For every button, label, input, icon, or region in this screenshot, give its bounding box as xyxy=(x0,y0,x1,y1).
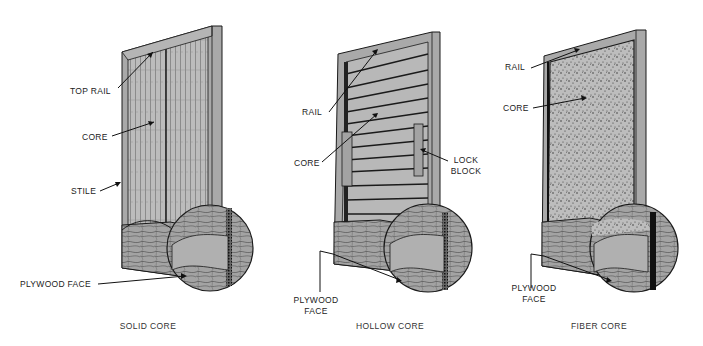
solid-core-door xyxy=(98,26,253,291)
label-lock-block-line2: BLOCK xyxy=(448,166,484,177)
caption-solid-core: SOLID CORE xyxy=(118,321,178,331)
caption-hollow-core: HOLLOW CORE xyxy=(350,321,430,331)
door-core-diagram xyxy=(0,0,703,346)
label-core: CORE xyxy=(82,132,108,143)
label-rail: RAIL xyxy=(302,107,322,118)
label-top-rail: TOP RAIL xyxy=(70,86,111,97)
label-plywood-face: PLYWOOD FACE xyxy=(20,279,91,290)
label-plywood-face-line1: PLYWOOD xyxy=(290,295,342,306)
label-lock-block-line1: LOCK xyxy=(448,155,484,166)
label-lock-block: LOCK BLOCK xyxy=(448,155,484,177)
label-plywood-face-line1: PLYWOOD xyxy=(508,283,560,294)
caption-fiber-core: FIBER CORE xyxy=(564,321,634,331)
label-rail: RAIL xyxy=(505,62,525,73)
label-plywood-face-line2: FACE xyxy=(508,294,560,305)
label-plywood-face: PLYWOOD FACE xyxy=(290,295,342,317)
label-plywood-face: PLYWOOD FACE xyxy=(508,283,560,305)
label-core: CORE xyxy=(503,103,529,114)
fiber-core-door xyxy=(531,30,678,292)
label-core: CORE xyxy=(294,158,320,169)
label-plywood-face-line2: FACE xyxy=(290,306,342,317)
label-stile: STILE xyxy=(71,186,96,197)
